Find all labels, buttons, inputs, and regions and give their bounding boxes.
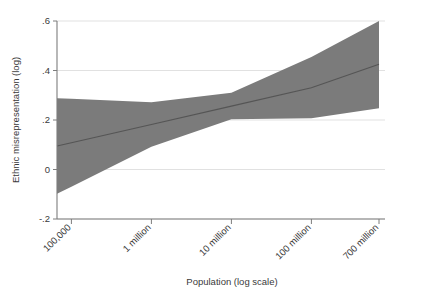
chart-container: .6.4.20-.2 100,0001 million10 million100… — [0, 0, 426, 296]
y-tick-label: .2 — [42, 114, 50, 125]
y-tick-label: .6 — [42, 15, 50, 26]
y-tick-label: .4 — [42, 65, 50, 76]
x-axis-title: Population (log scale) — [186, 276, 277, 287]
y-axis-title: Ethnic misrepresentation (log) — [10, 57, 21, 183]
y-tick-label: -.2 — [39, 213, 50, 224]
y-tick-label: 0 — [45, 164, 50, 175]
marginal-effects-plot: .6.4.20-.2 100,0001 million10 million100… — [0, 0, 426, 296]
